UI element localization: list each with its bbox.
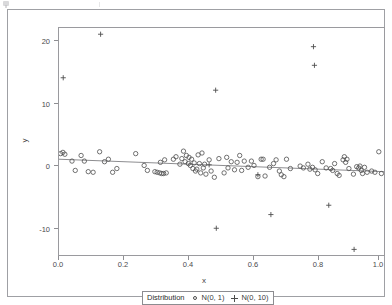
plot-area — [58, 27, 385, 256]
series-n01-markers — [59, 149, 384, 179]
legend[interactable]: Distribution N(0, 1) N(0, 10) — [142, 291, 274, 305]
x-tick-mark — [378, 256, 379, 260]
x-tick-mark — [318, 256, 319, 260]
x-tick-mark — [123, 256, 124, 260]
legend-title: Distribution — [147, 294, 185, 302]
window-chrome-artifact-tail — [5, 5, 7, 8]
y-tick-label: 0 — [28, 162, 50, 171]
series-n010-markers — [61, 32, 357, 252]
x-tick-label: 1.0 — [366, 260, 390, 269]
scatter-plot-canvas — [59, 28, 384, 255]
legend-entry-label: N(0, 1) — [202, 294, 225, 302]
window-chrome-artifact-mark — [99, 2, 100, 7]
x-tick-mark — [188, 256, 189, 260]
y-tick-label: -10 — [28, 225, 50, 234]
x-tick-label: 0.4 — [176, 260, 200, 269]
legend-entry-n010[interactable]: N(0, 10) — [231, 294, 268, 302]
x-axis-label: x — [202, 276, 206, 285]
legend-entry-n01[interactable]: N(0, 1) — [192, 294, 225, 302]
x-tick-label: 0.2 — [111, 260, 135, 269]
circle-marker-icon — [192, 295, 199, 302]
y-axis-label: y — [20, 139, 29, 143]
y-tick-label: 10 — [28, 100, 50, 109]
figure-border: y x 20 10 0 -10 0.0 0.2 0.4 0.6 0.8 1.0 — [7, 9, 385, 297]
x-tick-label: 0.8 — [306, 260, 330, 269]
x-tick-mark — [253, 256, 254, 260]
x-tick-label: 0.6 — [241, 260, 265, 269]
x-tick-label: 0.0 — [46, 260, 70, 269]
plus-marker-icon — [231, 295, 238, 302]
legend-entry-label: N(0, 10) — [241, 294, 268, 302]
x-tick-mark — [58, 256, 59, 260]
y-tick-label: 20 — [28, 37, 50, 46]
